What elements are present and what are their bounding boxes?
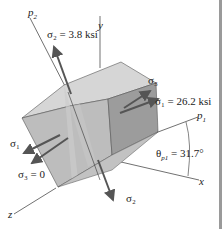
sigma2-bottom-label: σ₂ [126, 193, 136, 204]
x-axis-line [121, 162, 199, 180]
right-border [219, 0, 222, 229]
sigma2-top-label: σ₂ = 3.8 ksi [47, 29, 98, 40]
sigma1-right-label: σ₁ = 26.2 ksi [155, 96, 211, 107]
y-axis-label: y [98, 20, 103, 31]
p2-axis-label: p2 [28, 7, 37, 21]
z-axis-label: z [8, 209, 12, 220]
sigma1-left-label: σ₁ [10, 138, 20, 149]
stress-element-diagram: p2 y p1 x z σ₂ = 3.8 ksi σ₃ σ₁ = 26.2 ks… [0, 0, 222, 229]
diagram-canvas [0, 0, 222, 229]
z-axis-line [14, 188, 56, 214]
p1-axis-line [158, 117, 198, 132]
p1-axis-label: p1 [197, 110, 206, 124]
sigma3-right-label: σ₃ [148, 75, 158, 86]
x-axis-label: x [199, 176, 204, 187]
theta-label: θp1 = 31.7° [156, 148, 204, 162]
sigma3-left-label: σ₃ = 0 [18, 169, 45, 180]
